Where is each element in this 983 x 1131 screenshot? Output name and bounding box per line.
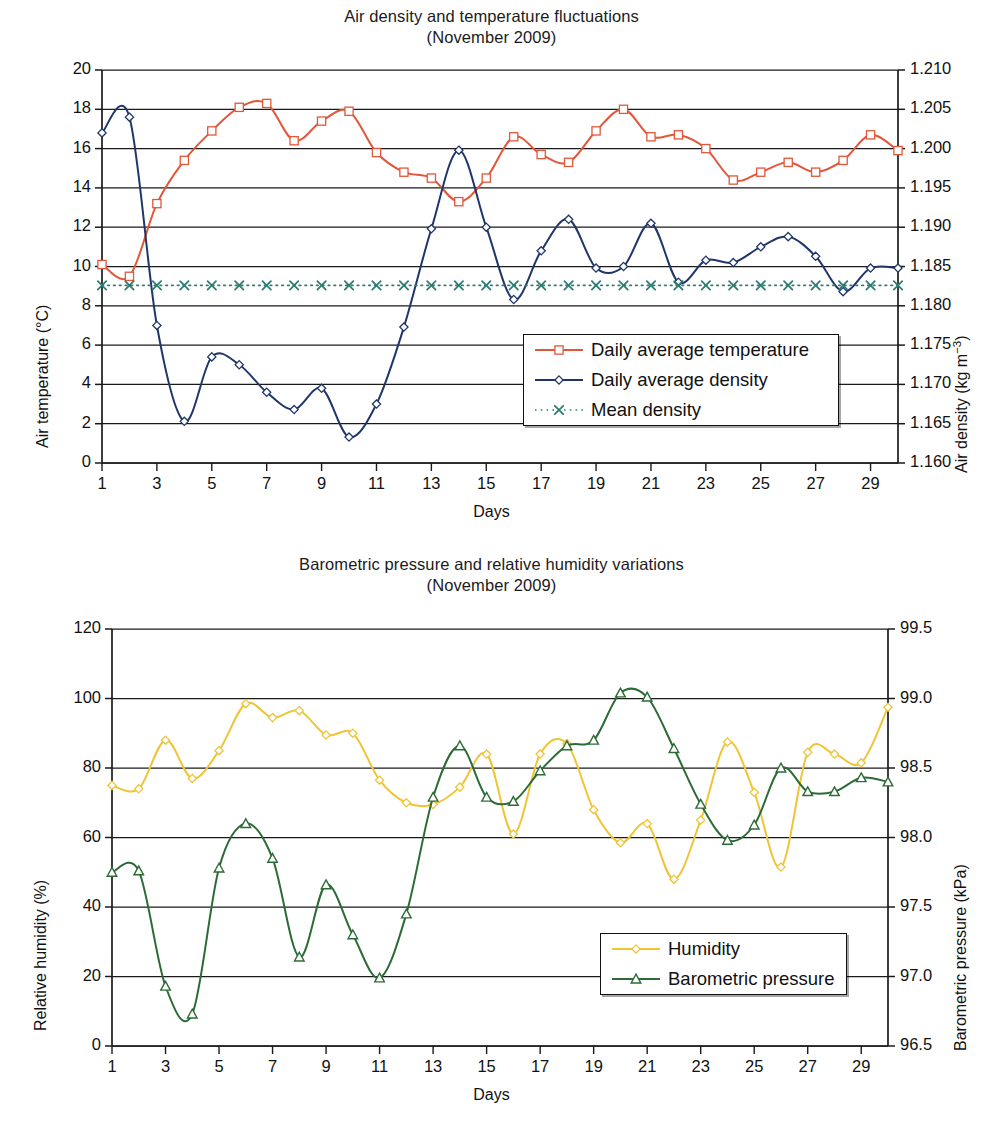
air-density-temperature-figure: Air density and temperature fluctuations… [0,0,983,560]
x-tick: 9 [302,474,342,493]
top-plot-area: Air temperature (°C) Air density (kg m−3… [0,48,983,553]
x-tick: 1 [92,1057,132,1076]
y-left-tick: 10 [73,256,91,275]
bottom-y-left-axis-title: Relative humidity (%) [32,880,50,1031]
top-chart-title: Air density and temperature fluctuations… [0,0,983,48]
y-left-tick: 100 [73,688,101,707]
x-tick: 21 [627,1057,667,1076]
x-tick: 29 [851,474,891,493]
x-tick: 21 [631,474,671,493]
pressure-humidity-figure: Barometric pressure and relative humidit… [0,548,983,1131]
x-tick: 15 [466,474,506,493]
y-left-tick: 80 [83,757,101,776]
x-tick: 11 [360,1057,400,1076]
x-tick: 1 [82,474,122,493]
top-chart-legend: Daily average temperatureDaily average d… [523,334,839,426]
y-left-tick: 2 [82,413,91,432]
y-right-tick: 1.175 [910,334,951,353]
y-right-tick: 1.180 [910,295,951,314]
y-right-tick: 98.0 [900,827,932,846]
y-right-tick: 1.170 [910,373,951,392]
legend-key-icon [610,970,662,988]
legend-label: Daily average temperature [591,341,809,360]
x-tick: 25 [734,1057,774,1076]
legend-item: Barometric pressure [601,964,846,994]
y-left-tick: 14 [73,177,91,196]
y-right-tick: 96.5 [900,1035,932,1054]
x-tick: 13 [411,474,451,493]
y-right-tick: 1.200 [910,138,951,157]
y-left-tick: 20 [83,966,101,985]
bottom-x-axis-title: Days [0,1086,983,1104]
y-left-tick: 120 [73,618,101,637]
top-chart-title-line1: Air density and temperature fluctuations [344,7,639,25]
legend-item: Daily average temperature [524,335,838,365]
bottom-plot-area: Relative humidity (%) Barometric pressur… [0,596,983,1126]
x-tick: 23 [681,1057,721,1076]
top-y-left-axis-title: Air temperature (°C) [34,305,52,448]
x-tick: 3 [146,1057,186,1076]
y-left-tick: 0 [92,1035,101,1054]
y-right-tick: 97.5 [900,896,932,915]
x-tick: 7 [253,1057,293,1076]
x-tick: 15 [467,1057,507,1076]
y-left-tick: 0 [82,452,91,471]
y-right-tick: 1.205 [910,98,951,117]
y-right-tick: 1.165 [910,413,951,432]
y-right-tick: 1.195 [910,177,951,196]
x-tick: 5 [192,474,232,493]
y-right-tick: 99.5 [900,618,932,637]
y-right-tick: 1.210 [910,59,951,78]
y-left-tick: 16 [73,138,91,157]
x-tick: 27 [788,1057,828,1076]
top-x-axis-title: Days [0,503,983,521]
x-tick: 23 [686,474,726,493]
bottom-chart-title-line1: Barometric pressure and relative humidit… [299,555,684,573]
top-y-right-axis-title: Air density (kg m−3) [951,335,971,473]
y-left-tick: 20 [73,59,91,78]
x-tick: 19 [576,474,616,493]
legend-key-icon [533,371,585,389]
x-tick: 13 [413,1057,453,1076]
legend-item: Humidity [601,934,846,964]
y-left-tick: 6 [82,334,91,353]
legend-label: Barometric pressure [668,970,835,989]
y-right-tick: 1.185 [910,256,951,275]
legend-key-icon [533,341,585,359]
y-left-tick: 12 [73,216,91,235]
y-left-tick: 60 [83,827,101,846]
y-left-tick: 18 [73,98,91,117]
legend-label: Daily average density [591,371,768,390]
x-tick: 17 [521,474,561,493]
y-left-tick: 4 [82,373,91,392]
bottom-y-right-axis-title: Barometric pressure (kPa) [952,864,970,1051]
legend-label: Mean density [591,401,701,420]
x-tick: 29 [841,1057,881,1076]
x-tick: 17 [520,1057,560,1076]
legend-label: Humidity [668,940,740,959]
x-tick: 27 [796,474,836,493]
x-tick: 9 [306,1057,346,1076]
y-right-tick: 98.5 [900,757,932,776]
bottom-chart-title: Barometric pressure and relative humidit… [0,548,983,596]
x-tick: 7 [247,474,287,493]
bottom-chart-subtitle: (November 2009) [0,575,983,596]
legend-item: Mean density [524,395,838,425]
legend-key-icon [610,940,662,958]
x-tick: 11 [356,474,396,493]
top-chart-subtitle: (November 2009) [0,27,983,48]
x-tick: 25 [741,474,781,493]
y-right-tick: 1.190 [910,216,951,235]
figure-page: Air density and temperature fluctuations… [0,0,983,1131]
legend-item: Daily average density [524,365,838,395]
bottom-chart-svg [0,596,983,1126]
y-right-tick: 99.0 [900,688,932,707]
y-left-tick: 8 [82,295,91,314]
y-right-tick: 97.0 [900,966,932,985]
legend-key-icon [533,401,585,419]
y-left-tick: 40 [83,896,101,915]
y-right-tick: 1.160 [910,452,951,471]
x-tick: 5 [199,1057,239,1076]
x-tick: 19 [574,1057,614,1076]
bottom-chart-legend: HumidityBarometric pressure [600,933,847,995]
